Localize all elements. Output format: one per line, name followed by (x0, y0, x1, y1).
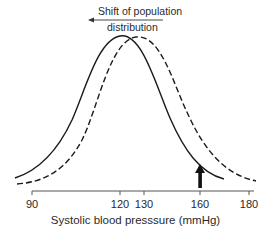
annotation-line-1: Shift of population (98, 5, 182, 17)
x-axis (32, 191, 254, 195)
tick-label-130: 130 (135, 198, 153, 210)
tick-label-160: 160 (191, 198, 209, 210)
x-axis-label: Systolic blood presssure (mmHg) (0, 214, 271, 226)
tick-label-120: 120 (111, 198, 129, 210)
solid-distribution-curve (15, 36, 224, 179)
tick-label-180: 180 (240, 198, 258, 210)
dashed-distribution-curve (17, 37, 256, 184)
annotation-line-2: distribution (107, 21, 158, 33)
tick-label-90: 90 (26, 198, 38, 210)
